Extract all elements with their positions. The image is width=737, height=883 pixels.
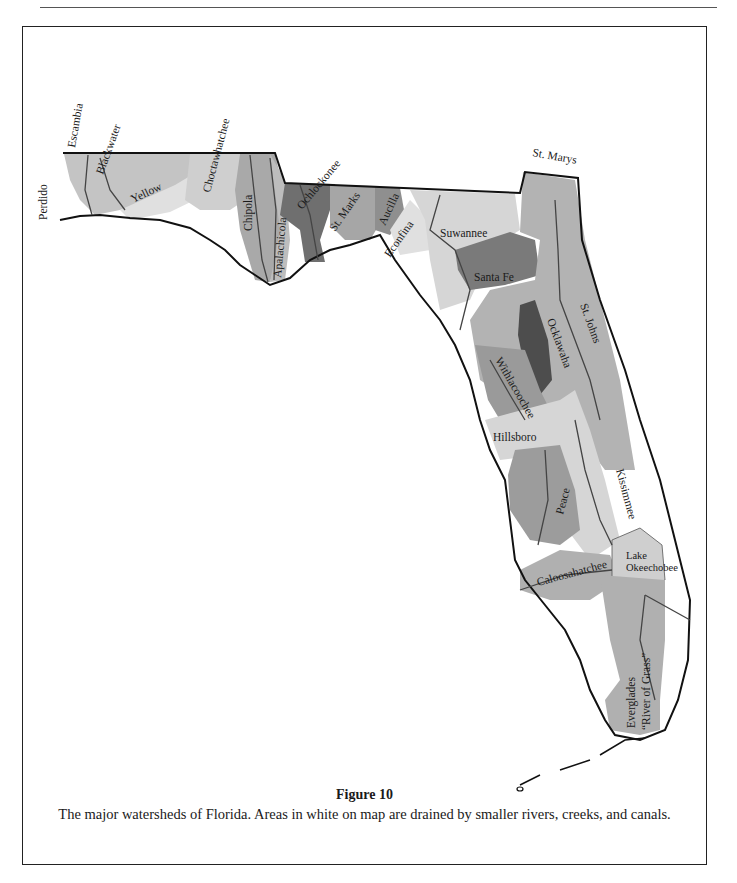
label-lake-okeechobee-2: Okeechobee: [626, 562, 678, 573]
label-escambia: Escambia: [65, 102, 85, 148]
florida-keys: [520, 738, 645, 785]
label-santa-fe: Santa Fe: [474, 271, 514, 283]
label-suwannee: Suwannee: [440, 227, 487, 239]
florida-watershed-map: Perdido Escambia Blackwater Yellow Choct…: [0, 0, 737, 883]
label-kissimmee: Kissimmee: [614, 467, 639, 520]
label-st-marys: St. Marys: [531, 146, 578, 167]
label-river-of-grass: “River of Grass”: [640, 653, 652, 730]
figure-caption: The major watersheds of Florida. Areas i…: [22, 806, 707, 823]
label-hillsboro: Hillsboro: [493, 431, 537, 443]
label-lake-okeechobee-1: Lake: [626, 550, 647, 561]
label-perdido: Perdido: [37, 184, 49, 220]
label-chipola: Chipola: [242, 195, 255, 231]
label-everglades: Everglades: [625, 677, 638, 728]
figure-title: Figure 10: [22, 787, 707, 803]
